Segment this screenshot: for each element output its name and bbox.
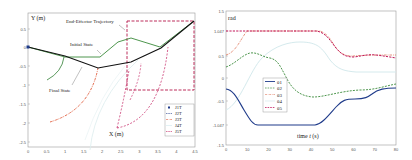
left-xtick: 3.5 (155, 149, 161, 154)
annotation-final-state: Final State (49, 88, 71, 93)
legend-j5t: J5T (175, 129, 182, 134)
right-xtick: 10 (245, 147, 250, 152)
left-ytick: -2 (22, 121, 26, 126)
right-xtick: 20 (266, 147, 271, 152)
legend-theta5: θ5 (277, 106, 282, 111)
left-y-axis-label: Y (m) (31, 15, 45, 22)
legend-j1t-marker (168, 107, 170, 109)
legend-j1t: J1T (175, 105, 182, 110)
legend-theta4: θ4 (277, 99, 282, 104)
right-legend: θ1 θ2 θ3 θ4 θ5 (263, 78, 287, 112)
left-xtick: 0 (27, 149, 30, 154)
left-legend: J1T J2T J3T J4T J5T (165, 104, 194, 136)
right-plot: 1.5 1.047 0.5 0 -0.5 -1.047 -1.5 0 10 20… (213, 9, 399, 153)
right-ytick: -0.5 (217, 99, 225, 104)
left-ytick: -0.5 (19, 64, 27, 69)
left-ytick: 0.5 (20, 27, 26, 32)
legend-j2t: J2T (175, 111, 182, 116)
left-xtick: 4 (175, 149, 178, 154)
left-ytick: 0 (24, 45, 27, 50)
left-xtick: 2 (101, 149, 104, 154)
legend-theta2: θ2 (277, 86, 282, 91)
right-ytick: 0.5 (218, 54, 224, 59)
left-ytick: -1.5 (19, 102, 27, 107)
left-xtick: 1 (64, 149, 67, 154)
right-ytick: 1.5 (218, 9, 224, 14)
right-y-ticks: 1.5 1.047 0.5 0 -0.5 -1.047 -1.5 (213, 9, 228, 148)
left-x-axis-label: X (m) (109, 131, 124, 138)
right-ytick: -1.047 (213, 123, 225, 128)
right-xtick: 30 (288, 147, 293, 152)
right-ytick: 0 (222, 76, 225, 81)
right-ytick: -1.5 (217, 143, 225, 148)
right-ytick: 1.047 (214, 29, 225, 34)
right-xtick: 40 (309, 147, 314, 152)
left-xtick: 2.5 (118, 149, 124, 154)
right-xtick: 0 (225, 147, 228, 152)
legend-theta3: θ3 (277, 93, 282, 98)
left-xtick: 1.5 (81, 149, 87, 154)
annotation-end-effector: End-Effector Trajectory (66, 19, 114, 24)
annotation-initial-state: Initial State (70, 42, 94, 47)
left-xtick: 0.5 (44, 149, 50, 154)
legend-theta1: θ1 (277, 80, 282, 85)
right-y-axis-label: rad (228, 15, 236, 21)
left-ytick: -1 (22, 83, 26, 88)
figure: 0.5 0 -0.5 -1 -1.5 -2 -2.5 0 0.5 1 1.5 2… (0, 0, 412, 160)
right-xtick: 50 (330, 147, 335, 152)
left-xtick: 4.5 (192, 149, 198, 154)
j1t-marker (27, 46, 30, 49)
left-ytick: -2.5 (19, 140, 27, 145)
left-xtick: 3 (138, 149, 141, 154)
right-xtick: 80 (394, 147, 399, 152)
legend-j3t: J3T (175, 117, 182, 122)
right-xtick: 70 (373, 147, 378, 152)
legend-j4t: J4T (175, 123, 182, 128)
left-plot: 0.5 0 -0.5 -1 -1.5 -2 -2.5 0 0.5 1 1.5 2… (19, 13, 198, 154)
right-x-ticks: 0 10 20 30 40 50 60 70 80 (225, 147, 399, 152)
left-x-ticks: 0 0.5 1 1.5 2 2.5 3 3.5 4 4.5 (27, 149, 199, 154)
right-x-axis-label: time t (s) (297, 133, 319, 140)
right-xtick: 60 (351, 147, 356, 152)
